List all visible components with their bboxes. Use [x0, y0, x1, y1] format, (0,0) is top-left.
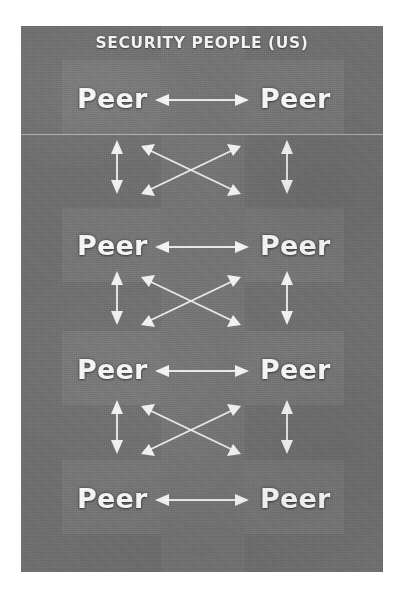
- connector-v-right-2-3: [281, 271, 293, 325]
- peer-node-r2c1[interactable]: Peer: [77, 232, 148, 259]
- connector-x-2-3-a: [141, 275, 241, 327]
- connector-v-right-1-2: [281, 140, 293, 194]
- peer-node-r4c1[interactable]: Peer: [77, 485, 148, 512]
- connector-x-2-3-b: [141, 275, 241, 327]
- peer-node-r3c1[interactable]: Peer: [77, 356, 148, 383]
- connector-v-left-3-4: [111, 400, 123, 454]
- screenshot-canvas: SECURITY PEOPLE (US) Peer Peer Peer Peer…: [0, 0, 400, 593]
- center-channel-backdrop: [161, 26, 245, 572]
- peer-node-r3c2[interactable]: Peer: [260, 356, 331, 383]
- connector-h-row4: [155, 494, 249, 506]
- header-separator-line: [21, 134, 383, 135]
- peer-node-r1c1[interactable]: Peer: [77, 85, 148, 112]
- page-title: SECURITY PEOPLE (US): [21, 34, 383, 52]
- peer-node-r2c2[interactable]: Peer: [260, 232, 331, 259]
- connector-h-row1: [155, 94, 249, 106]
- connector-v-right-3-4: [281, 400, 293, 454]
- connector-h-row2: [155, 241, 249, 253]
- connector-v-left-2-3: [111, 271, 123, 325]
- connector-x-3-4-a: [141, 404, 241, 456]
- connector-h-row3: [155, 365, 249, 377]
- peer-node-r4c2[interactable]: Peer: [260, 485, 331, 512]
- connector-x-1-2-b: [141, 144, 241, 196]
- connector-v-left-1-2: [111, 140, 123, 194]
- peer-node-r1c2[interactable]: Peer: [260, 85, 331, 112]
- connector-x-1-2-a: [141, 144, 241, 196]
- diagram-panel: SECURITY PEOPLE (US) Peer Peer Peer Peer…: [21, 26, 383, 572]
- connector-x-3-4-b: [141, 404, 241, 456]
